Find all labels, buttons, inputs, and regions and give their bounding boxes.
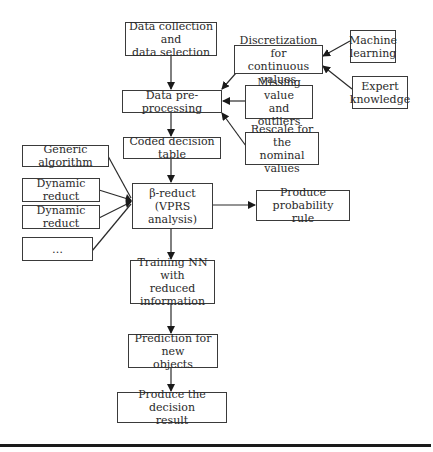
node-label: Dynamic reduct — [25, 204, 97, 230]
node-expert-knowledge: Expert knowledge — [352, 76, 408, 109]
node-label: … — [52, 243, 63, 256]
node-discretization: Discretization for continuous values — [234, 45, 323, 74]
node-decision-result: Produce the decision result — [117, 392, 227, 423]
node-label: Coded decision table — [126, 135, 218, 161]
node-label: β-reduct (VPRS analysis) — [135, 187, 210, 226]
node-prediction: Prediction for new objects — [128, 334, 218, 368]
node-label: Prediction for new objects — [131, 332, 215, 371]
node-label: Training NN with reduced information — [133, 256, 212, 308]
node-label: Missing value and outliers — [248, 76, 310, 128]
node-label: Produce probability rule — [259, 186, 347, 225]
edge-rescale-to-preprocessing — [222, 113, 246, 146]
node-label: Data collection and data selection — [128, 20, 214, 59]
edge-discretization-to-preprocessing — [222, 73, 236, 89]
node-data-preprocessing: Data pre-processing — [122, 90, 222, 113]
node-training-nn: Training NN with reduced information — [130, 260, 215, 304]
node-label: Dynamic reduct — [25, 177, 97, 203]
flowchart-canvas: Data collection and data selection Discr… — [0, 0, 433, 452]
node-dynamic-reduct-1: Dynamic reduct — [22, 178, 100, 202]
node-ellipsis: … — [22, 237, 93, 261]
bottom-rule-divider — [0, 444, 431, 447]
node-generic-algorithm: Generic algorithm — [22, 145, 109, 167]
node-dynamic-reduct-2: Dynamic reduct — [22, 205, 100, 229]
edge-generic-to-beta — [108, 156, 131, 198]
edge-expert-to-discretization — [323, 66, 352, 89]
node-data-collection: Data collection and data selection — [125, 22, 217, 56]
node-probability-rule: Produce probability rule — [256, 190, 350, 221]
node-label: Machine learning — [349, 34, 397, 60]
node-coded-decision-table: Coded decision table — [123, 137, 221, 159]
node-rescale: Rescale for the nominal values — [245, 132, 319, 165]
node-label: Generic algorithm — [25, 143, 106, 169]
node-missing-value: Missing value and outliers — [245, 85, 313, 119]
node-label: Expert knowledge — [350, 80, 410, 106]
node-label: Data pre-processing — [125, 89, 219, 115]
node-label: Produce the decision result — [120, 388, 224, 427]
node-machine-learning: Machine learning — [350, 30, 396, 63]
node-beta-reduct: β-reduct (VPRS analysis) — [132, 183, 213, 229]
edge-ml-to-discretization — [323, 41, 350, 56]
node-label: Rescale for the nominal values — [248, 123, 316, 175]
